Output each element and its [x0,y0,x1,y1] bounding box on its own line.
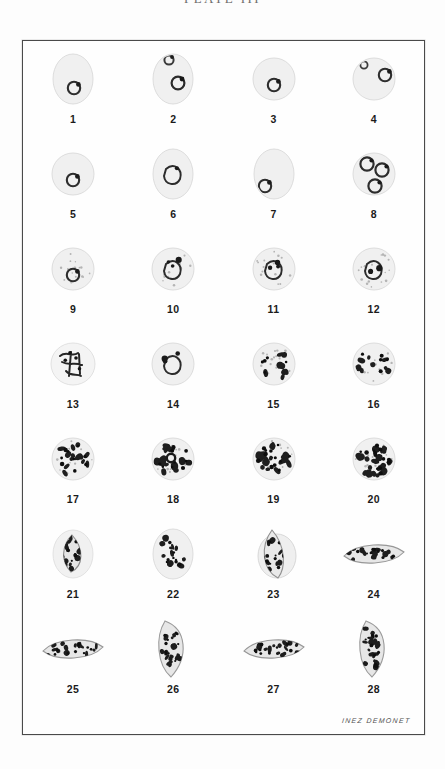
specimen-27-image [228,615,320,683]
figure-cell-21[interactable]: 21 [23,520,123,615]
figure-grid: 1 2 3 4 [23,45,424,710]
figure-cell-7[interactable]: 7 [224,140,324,235]
specimen-26-image [127,615,219,683]
figure-label-6: 6 [170,209,176,220]
specimen-9-image [27,235,119,303]
figure-cell-5[interactable]: 5 [23,140,123,235]
figure-cell-8[interactable]: 8 [324,140,424,235]
figure-cell-20[interactable]: 20 [324,425,424,520]
figure-label-17: 17 [67,494,80,505]
specimen-17-image [27,425,119,493]
figure-cell-9[interactable]: 9 [23,235,123,330]
figure-label-21: 21 [67,589,80,600]
figure-label-5: 5 [70,209,76,220]
figure-label-12: 12 [368,304,381,315]
figure-label-28: 28 [368,684,381,695]
specimen-2-image [127,45,219,113]
figure-row: 17 18 19 20 [23,425,424,520]
specimen-8-image [328,140,420,208]
figure-cell-4[interactable]: 4 [324,45,424,140]
figure-label-14: 14 [167,399,180,410]
specimen-23-image [228,520,320,588]
figure-row: 1 2 3 4 [23,45,424,140]
figure-cell-14[interactable]: 14 [123,330,223,425]
specimen-25-image [27,615,119,683]
specimen-22-image [127,520,219,588]
figure-cell-19[interactable]: 19 [224,425,324,520]
figure-label-22: 22 [167,589,180,600]
figure-label-4: 4 [371,114,377,125]
figure-label-1: 1 [70,114,76,125]
figure-cell-28[interactable]: 28 [324,615,424,710]
figure-label-7: 7 [270,209,276,220]
specimen-14-image [127,330,219,398]
plate-page: PLATE III 1 2 [0,0,445,769]
specimen-18-image [127,425,219,493]
figure-cell-16[interactable]: 16 [324,330,424,425]
figure-label-23: 23 [267,589,280,600]
figure-label-20: 20 [368,494,381,505]
figure-cell-26[interactable]: 26 [123,615,223,710]
figure-row: 21 22 23 [23,520,424,615]
figure-cell-2[interactable]: 2 [123,45,223,140]
figure-label-25: 25 [67,684,80,695]
specimen-16-image [328,330,420,398]
specimen-19-image [228,425,320,493]
figure-label-8: 8 [371,209,377,220]
plate-frame: 1 2 3 4 [22,40,425,735]
figure-label-26: 26 [167,684,180,695]
figure-cell-1[interactable]: 1 [23,45,123,140]
figure-label-27: 27 [267,684,280,695]
figure-label-9: 9 [70,304,76,315]
figure-cell-11[interactable]: 11 [224,235,324,330]
figure-cell-25[interactable]: 25 [23,615,123,710]
specimen-3-image [228,45,320,113]
figure-cell-22[interactable]: 22 [123,520,223,615]
specimen-5-image [27,140,119,208]
figure-label-13: 13 [67,399,80,410]
specimen-6-image [127,140,219,208]
figure-label-19: 19 [267,494,280,505]
figure-row: 5 6 7 8 [23,140,424,235]
specimen-10-image [127,235,219,303]
plate-inner: 1 2 3 4 [23,41,424,734]
figure-row: 9 10 11 12 [23,235,424,330]
figure-cell-12[interactable]: 12 [324,235,424,330]
specimen-11-image [228,235,320,303]
specimen-20-image [328,425,420,493]
figure-cell-24[interactable]: 24 [324,520,424,615]
specimen-15-image [228,330,320,398]
figure-cell-27[interactable]: 27 [224,615,324,710]
specimen-12-image [328,235,420,303]
specimen-21-image [27,520,119,588]
figure-cell-23[interactable]: 23 [224,520,324,615]
figure-label-16: 16 [368,399,381,410]
figure-cell-6[interactable]: 6 [123,140,223,235]
page-title: PLATE III [0,0,445,7]
specimen-24-image [328,520,420,588]
figure-cell-18[interactable]: 18 [123,425,223,520]
specimen-4-image [328,45,420,113]
figure-row: 25 26 27 28 [23,615,424,710]
figure-label-24: 24 [368,589,381,600]
figure-cell-3[interactable]: 3 [224,45,324,140]
figure-cell-17[interactable]: 17 [23,425,123,520]
specimen-1-image [27,45,119,113]
figure-label-10: 10 [167,304,180,315]
figure-label-2: 2 [170,114,176,125]
figure-cell-13[interactable]: 13 [23,330,123,425]
figure-cell-15[interactable]: 15 [224,330,324,425]
specimen-7-image [228,140,320,208]
figure-label-15: 15 [267,399,280,410]
figure-cell-10[interactable]: 10 [123,235,223,330]
specimen-28-image [328,615,420,683]
figure-label-11: 11 [268,304,280,315]
figure-label-3: 3 [270,114,276,125]
specimen-13-image [27,330,119,398]
artist-signature: INEZ DEMONET [341,717,410,724]
figure-row: 13 14 15 16 [23,330,424,425]
figure-label-18: 18 [167,494,180,505]
